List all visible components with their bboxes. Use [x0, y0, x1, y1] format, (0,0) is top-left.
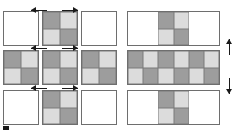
strip-cell-0-empty	[128, 12, 143, 29]
right-down-arrow	[225, 78, 232, 94]
tile-mc	[42, 50, 78, 85]
tile-tc	[42, 11, 78, 46]
right-up-arrow	[225, 39, 232, 55]
strip-cell-grid	[128, 51, 219, 84]
strip-cell-6-empty	[128, 108, 143, 125]
tile-tl	[3, 11, 39, 46]
unit-cell-0-dark	[43, 51, 60, 68]
strip-cell-5-light	[204, 51, 219, 68]
strip-cell-3-light	[174, 91, 189, 108]
strip-cell-3-light	[174, 12, 189, 29]
strip-cell-4-empty	[189, 12, 204, 29]
arrow-head-left	[31, 85, 36, 91]
unit-cell-3-dark	[60, 29, 77, 46]
unit-cell-3-dark	[99, 68, 116, 85]
strip-cell-1-light	[143, 51, 158, 68]
strip-cell-6-light	[128, 68, 143, 85]
strip-cell-2-dark	[158, 12, 173, 29]
unit-cell-0-dark	[82, 51, 99, 68]
unit-cell-1-light	[60, 51, 77, 68]
unit-cell-1-light	[60, 12, 77, 29]
strip-cell-6-empty	[128, 29, 143, 46]
strip-cell-3-light	[174, 51, 189, 68]
middle-left-arrow	[31, 44, 47, 51]
arrow-head-right	[73, 7, 78, 13]
bottom-left-arrow	[31, 84, 47, 91]
strip-cell-0-empty	[128, 91, 143, 108]
strip-cell-11-empty	[204, 108, 219, 125]
strip-cell-11-dark	[204, 68, 219, 85]
strip-cell-9-dark	[174, 68, 189, 85]
arrow-head-down	[226, 89, 232, 94]
strip-cell-4-empty	[189, 91, 204, 108]
origin-marker	[3, 126, 9, 130]
arrow-head-left	[31, 7, 36, 13]
strip-cell-9-dark	[174, 29, 189, 46]
strip-cell-1-empty	[143, 12, 158, 29]
tile-tr	[81, 11, 117, 46]
top-strip	[127, 11, 220, 46]
unit-cell-3-dark	[21, 68, 38, 85]
strip-cell-2-dark	[158, 51, 173, 68]
strip-cell-4-dark	[189, 51, 204, 68]
tile-mr	[81, 50, 117, 85]
unit-cell-2-light	[82, 68, 99, 85]
unit-cell-0-dark	[43, 91, 60, 108]
tile-br	[81, 90, 117, 125]
tile-ml	[3, 50, 39, 85]
unit-cell-3-dark	[60, 108, 77, 125]
strip-cell-10-light	[189, 68, 204, 85]
unit-cell-grid	[82, 51, 116, 84]
strip-cell-2-dark	[158, 91, 173, 108]
strip-cell-10-empty	[189, 108, 204, 125]
strip-cell-11-empty	[204, 29, 219, 46]
unit-cell-3-dark	[60, 68, 77, 85]
middle-right-arrow	[62, 44, 78, 51]
bottom-right-arrow	[62, 84, 78, 91]
tile-bc	[42, 90, 78, 125]
unit-cell-1-light	[60, 91, 77, 108]
strip-cell-8-light	[158, 29, 173, 46]
arrow-head-left	[31, 45, 36, 51]
strip-cell-grid	[128, 12, 219, 45]
unit-cell-2-light	[43, 68, 60, 85]
strip-cell-grid	[128, 91, 219, 124]
strip-cell-1-empty	[143, 91, 158, 108]
figure-root: Periodic tiling of a unit cell	[0, 0, 234, 131]
strip-cell-9-dark	[174, 108, 189, 125]
unit-cell-0-dark	[4, 51, 21, 68]
strip-cell-0-dark	[128, 51, 143, 68]
unit-cell-grid	[4, 51, 38, 84]
tile-bl	[3, 90, 39, 125]
unit-cell-0-dark	[43, 12, 60, 29]
unit-cell-2-light	[43, 29, 60, 46]
strip-cell-8-light	[158, 108, 173, 125]
arrow-head-up	[226, 39, 232, 44]
figure-title: Periodic tiling of a unit cell	[0, 0, 1, 1]
unit-cell-2-light	[4, 68, 21, 85]
middle-strip	[127, 50, 220, 85]
unit-cell-2-light	[43, 108, 60, 125]
strip-cell-10-empty	[189, 29, 204, 46]
unit-cell-grid	[43, 51, 77, 84]
unit-cell-grid	[43, 12, 77, 45]
top-left-arrow	[31, 6, 47, 13]
top-right-arrow	[62, 6, 78, 13]
strip-cell-7-empty	[143, 108, 158, 125]
arrow-head-right	[73, 85, 78, 91]
strip-cell-7-dark	[143, 68, 158, 85]
strip-cell-5-empty	[204, 91, 219, 108]
unit-cell-1-light	[99, 51, 116, 68]
unit-cell-grid	[43, 91, 77, 124]
bottom-strip	[127, 90, 220, 125]
strip-cell-5-empty	[204, 12, 219, 29]
arrow-head-right	[73, 45, 78, 51]
strip-cell-8-light	[158, 68, 173, 85]
unit-cell-1-light	[21, 51, 38, 68]
strip-cell-7-empty	[143, 29, 158, 46]
